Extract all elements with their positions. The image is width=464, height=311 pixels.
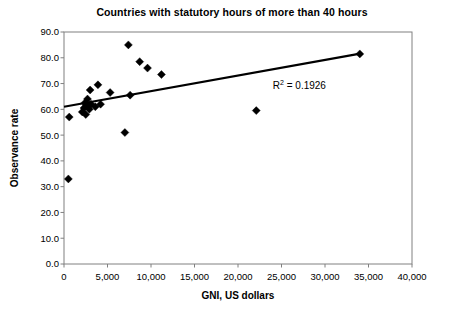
- y-axis-tick-label: 80.0: [41, 52, 60, 63]
- x-axis-tick-label: 30,000: [310, 271, 339, 282]
- scatter-chart: Countries with statutory hours of more t…: [0, 0, 464, 311]
- plot-canvas: 0.010.020.030.040.050.060.070.080.090.0 …: [0, 0, 464, 311]
- data-point-marker: [64, 175, 72, 183]
- x-axis-tick-label: 0: [61, 271, 66, 282]
- y-axis-tick-label: 90.0: [41, 26, 60, 37]
- data-point-marker: [252, 107, 260, 115]
- y-axis-tick-label: 30.0: [41, 181, 60, 192]
- y-axis-tick-label: 20.0: [41, 207, 60, 218]
- x-axis-title: GNI, US dollars: [202, 290, 275, 301]
- x-axis-tick-marks: [64, 264, 412, 268]
- x-axis-tick-label: 15,000: [180, 271, 209, 282]
- y-axis-tick-label: 40.0: [41, 155, 60, 166]
- data-point-marker: [126, 91, 134, 99]
- x-axis-tick-label: 25,000: [267, 271, 296, 282]
- y-axis-tick-label: 70.0: [41, 78, 60, 89]
- y-axis-tick-marks: [61, 32, 65, 264]
- y-axis-tick-label: 10.0: [41, 233, 60, 244]
- plot-area-frame: [64, 32, 412, 264]
- y-axis-tick-labels: 0.010.020.030.040.050.060.070.080.090.0: [41, 26, 60, 269]
- data-point-marker: [121, 129, 129, 137]
- data-point-marker: [356, 50, 364, 58]
- data-point-marker: [106, 89, 114, 97]
- data-point-marker: [157, 71, 165, 79]
- x-axis-tick-label: 20,000: [223, 271, 252, 282]
- data-point-marker: [86, 86, 94, 94]
- data-point-marker: [124, 41, 132, 49]
- x-axis-tick-label: 10,000: [136, 271, 165, 282]
- y-axis-tick-label: 60.0: [41, 104, 60, 115]
- data-point-markers: [64, 41, 363, 183]
- x-axis-tick-label: 5,000: [96, 271, 120, 282]
- x-axis-tick-labels: 05,00010,00015,00020,00025,00030,00035,0…: [61, 271, 426, 282]
- data-point-marker: [136, 58, 144, 66]
- y-axis-tick-label: 50.0: [41, 130, 60, 141]
- x-axis-tick-label: 40,000: [397, 271, 426, 282]
- y-axis-title: Observance rate: [9, 108, 20, 187]
- y-axis-tick-label: 0.0: [46, 258, 59, 269]
- r-squared-annotation: R2 = 0.1926: [273, 79, 327, 91]
- data-point-marker: [144, 64, 152, 72]
- data-point-marker: [94, 81, 102, 89]
- data-point-marker: [65, 113, 73, 121]
- x-axis-tick-label: 35,000: [354, 271, 383, 282]
